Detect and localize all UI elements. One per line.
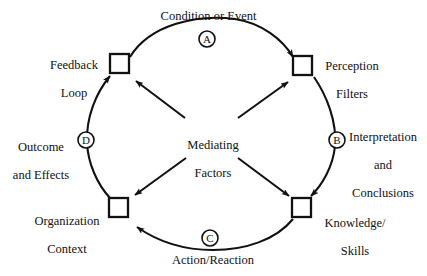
node-label-perception-filters: Perception Filters [316,45,388,115]
arc-d-label-line1: Outcome [3,140,79,154]
node-label-knowledge-skills-line1: Knowledge/ [315,216,395,230]
arc-c-label: Action/Reaction [143,253,283,267]
node-organization-context [109,198,128,217]
marker-d-letter: D [82,134,90,146]
marker-a: A [199,31,215,47]
node-feedback-loop [110,54,129,73]
mediating-arrow-upright [238,82,288,118]
mediating-arrow-upleft [136,81,185,118]
arc-b-label-line2: and [340,158,426,172]
node-label-organization-context: Organization Context [27,200,107,270]
arc-b-label-line3: Conclusions [340,186,426,200]
arc-a-label: Condition or Event [126,9,291,23]
node-label-perception-filters-line1: Perception [316,59,388,73]
arc-d-label-line2: and Effects [3,168,79,182]
mediating-arrow-to-perception-filters [238,82,288,118]
node-knowledge-skills [292,198,311,217]
marker-a-letter: A [203,33,211,45]
node-label-organization-context-line1: Organization [27,214,107,228]
diagram-canvas: A B C D Condition or Event Feedback Loop… [0,0,427,276]
center-label-mediating-factors: Mediating Factors [173,124,253,194]
center-label-line1: Mediating [173,138,253,152]
mediating-arrow-to-feedback-loop [136,81,185,118]
center-label-line2: Factors [173,166,253,180]
arc-b-label: Interpretation and Conclusions [340,116,426,214]
node-label-organization-context-line2: Context [27,242,107,256]
arc-d-label: Outcome and Effects [3,126,79,196]
node-label-knowledge-skills-line2: Skills [315,244,395,258]
marker-c: C [202,230,218,246]
node-label-feedback-loop-line2: Loop [42,86,106,100]
node-label-knowledge-skills: Knowledge/ Skills [315,202,395,272]
arc-b-label-line1: Interpretation [340,130,426,144]
node-perception-filters [293,56,312,75]
node-label-feedback-loop-line1: Feedback [42,58,106,72]
node-label-feedback-loop: Feedback Loop [42,44,106,114]
marker-c-letter: C [206,232,213,244]
node-label-perception-filters-line2: Filters [316,87,388,101]
marker-d: D [78,132,94,148]
